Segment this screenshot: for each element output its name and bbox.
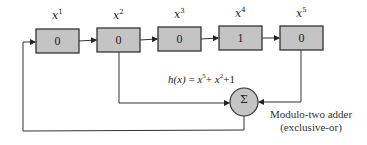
register-value-2: 0 <box>97 28 140 52</box>
register-label-1: x1 <box>52 8 63 22</box>
adder-caption-line2: (exclusive-or) <box>255 121 367 134</box>
adder-caption: Modulo-two adder (exclusive-or) <box>255 108 367 134</box>
tap-line-x5 <box>259 50 301 102</box>
register-label-5: x5 <box>296 6 307 20</box>
polynomial-formula: h(x) = x5+ x2+1 <box>168 72 235 85</box>
register-value-4: 1 <box>219 26 262 50</box>
adder-caption-line1: Modulo-two adder <box>255 108 367 121</box>
register-label-4: x4 <box>235 6 246 20</box>
register-value-1: 0 <box>36 29 79 53</box>
register-value-3: 0 <box>158 27 201 51</box>
feedback-line <box>23 42 244 131</box>
shift-arrow-2-3 <box>140 39 157 40</box>
shift-arrow-1-2 <box>79 40 96 41</box>
register-label-2: x2 <box>113 8 124 22</box>
shift-arrow-3-4 <box>201 38 218 39</box>
register-label-3: x3 <box>174 7 185 21</box>
sigma-symbol: Σ <box>230 93 258 111</box>
register-value-5: 0 <box>280 26 323 50</box>
